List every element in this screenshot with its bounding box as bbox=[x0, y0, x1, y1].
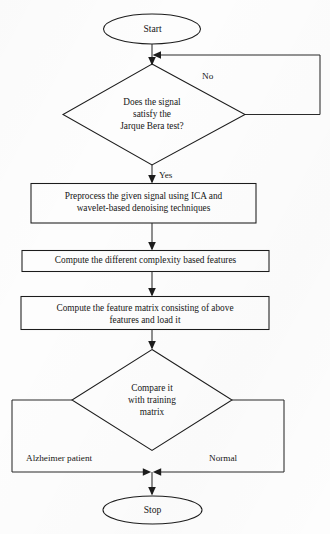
arrowhead-into-decision-compare bbox=[148, 341, 156, 350]
process-feature-matrix-label: Compute the feature matrix consisting of… bbox=[24, 303, 266, 327]
stop-label: Stop bbox=[103, 504, 202, 516]
edge-label-yes: Yes bbox=[159, 170, 172, 180]
decision-jarque-bera-label: Does the signal satisfy the Jarque Bera … bbox=[82, 97, 222, 132]
edge-label-alzheimer-patient: Alzheimer patient bbox=[26, 453, 92, 463]
start-label: Start bbox=[103, 23, 202, 35]
edge-label-no: No bbox=[202, 71, 213, 81]
arrowhead-right-outcome-junction bbox=[153, 468, 161, 475]
arrowhead-into-feature-matrix bbox=[148, 288, 156, 297]
flowchart-canvas: Start Does the signal satisfy the Jarque… bbox=[0, 0, 330, 534]
arrowhead-left-outcome-junction bbox=[143, 468, 151, 475]
process-complexity-label: Compute the different complexity based f… bbox=[25, 255, 266, 267]
arrowhead-into-complexity bbox=[148, 242, 156, 251]
decision-compare-label: Compare it with training matrix bbox=[94, 383, 210, 418]
process-preprocess-label: Preprocess the given signal using ICA an… bbox=[34, 191, 253, 215]
arrowhead-into-preprocess bbox=[148, 175, 156, 184]
edge-label-normal: Normal bbox=[209, 453, 237, 463]
arrowhead-into-stop bbox=[148, 487, 156, 496]
